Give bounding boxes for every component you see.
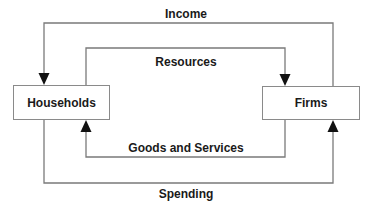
arrow-up-icon — [81, 120, 92, 132]
firms-label: Firms — [295, 96, 328, 110]
spending-label: Spending — [159, 187, 214, 201]
resources-label: Resources — [155, 55, 216, 69]
households-node: Households — [13, 85, 110, 120]
arrow-down-icon — [280, 74, 291, 86]
households-label: Households — [27, 96, 96, 110]
arrow-down-icon — [39, 73, 50, 85]
goods-services-label: Goods and Services — [128, 141, 243, 155]
circular-flow-diagram: Households Firms Income Resources Goods … — [0, 0, 370, 212]
income-label: Income — [165, 7, 207, 21]
firms-node: Firms — [262, 86, 360, 120]
arrow-up-icon — [328, 120, 339, 132]
